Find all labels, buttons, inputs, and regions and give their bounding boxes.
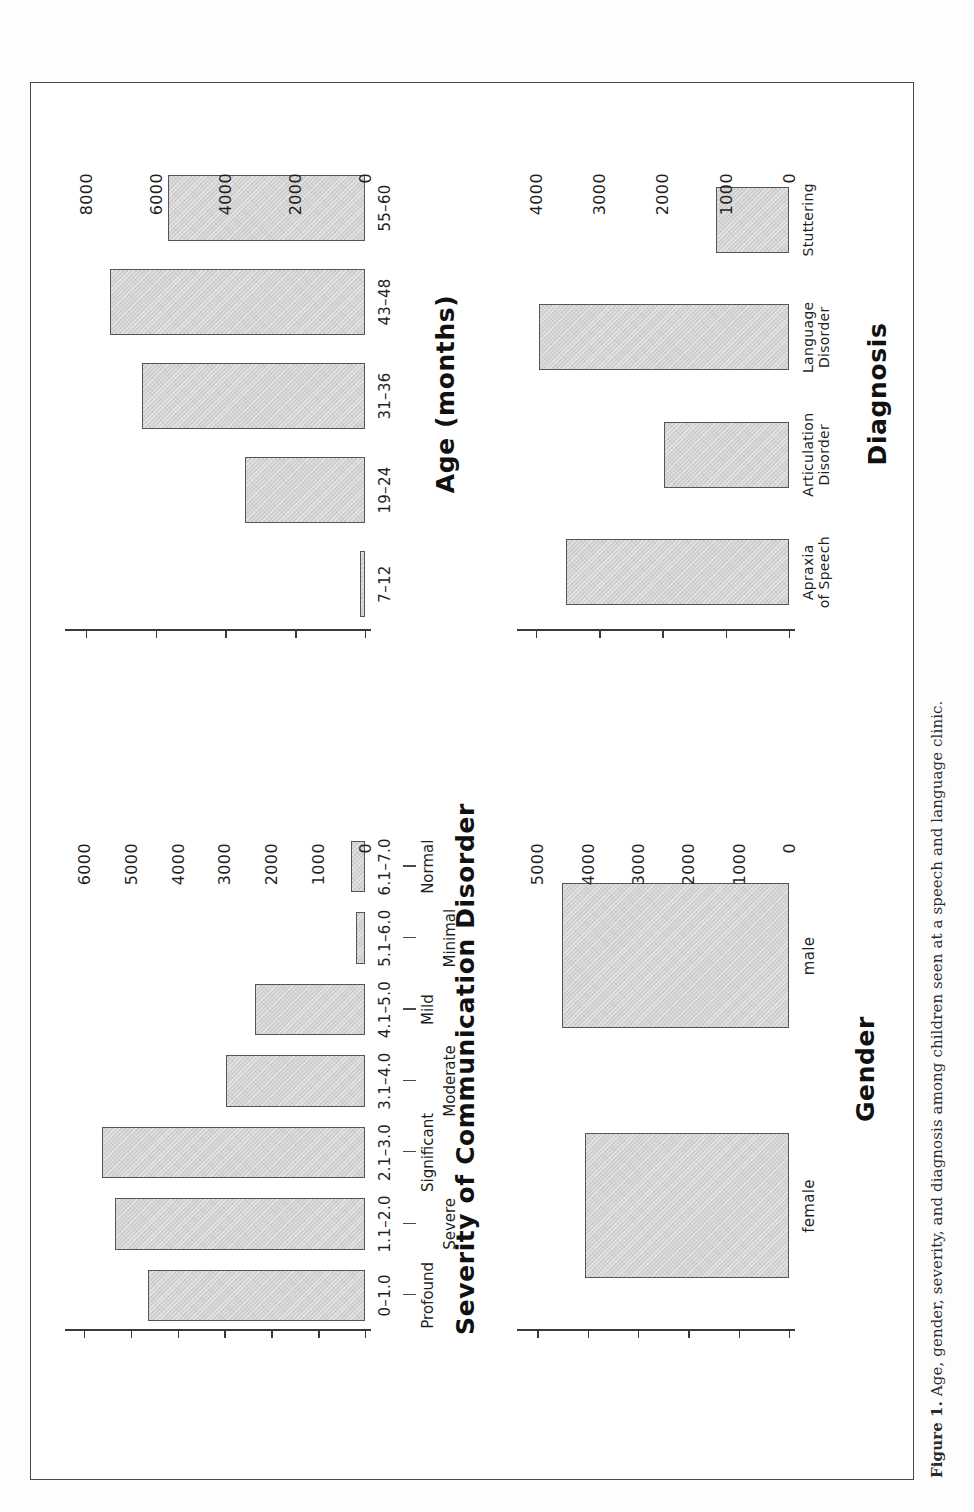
bar-2.1–3.0 [102,1127,365,1178]
diagnosis-y-tick-label: 2000 [653,173,672,215]
age-x-label: 31–36 [377,372,394,419]
age-x-label: 55–60 [377,184,394,231]
severity-x-label: 3.1–4.0 [377,1052,394,1109]
gender-plot-area: 010002000300040005000 [517,831,789,1331]
gender-y-tick [739,1331,740,1338]
severity-x-label: 5.1–6.0 [377,910,394,967]
gender-y-tick [789,1331,790,1338]
bar-apraxia-of-speech [566,539,789,605]
severity-y-tick-label: 6000 [74,843,93,885]
diagnosis-y-axis [517,629,795,631]
gender-x-label: female [801,1179,818,1233]
figure-caption: Figure 1. Age, gender, severity, and dia… [928,78,946,1478]
age-x-label: 43–48 [377,278,394,325]
chart-panel-age: 02000400060008000 7–1219–2431–3643–4855–… [59,119,489,739]
severity-y-tick-label: 0 [356,843,375,854]
age-chart-title: Age (months) [431,295,460,494]
age-plot-area: 02000400060008000 [65,161,365,631]
gender-y-tick [537,1331,538,1338]
bar-5.1–6.0 [356,912,365,963]
age-y-tick-label: 2000 [286,173,305,215]
age-x-label: 19–24 [377,466,394,513]
bar-1.1–2.0 [115,1198,365,1249]
severity-x-label: 2.1–3.0 [377,1124,394,1181]
bar-19–24 [245,457,365,523]
severity-y-tick [178,1331,179,1338]
severity-y-tick-label: 3000 [215,843,234,885]
age-y-tick [225,631,226,638]
figure-caption-text: Age, gender, severity, and diagnosis amo… [928,701,946,1397]
gender-y-tick-label: 1000 [729,843,748,885]
diagnosis-x-label: Articulation Disorder [801,413,832,497]
diagnosis-plot-area: 01000200030004000 [517,161,789,631]
severity-y-tick-label: 5000 [121,843,140,885]
diagnosis-y-tick [726,631,727,638]
severity-x-label: 6.1–7.0 [377,838,394,895]
chart-panel-diagnosis: 01000200030004000 Apraxia of SpeechArtic… [511,119,911,739]
diagnosis-y-tick [536,631,537,638]
diagnosis-x-label: Apraxia of Speech [801,536,832,608]
diagnosis-y-tick-label: 0 [780,173,799,184]
age-x-label: 7–12 [377,565,394,602]
figure-border-box: 0100020003000400050006000 0–1.01.1–2.02.… [30,82,914,1480]
gender-y-tick [688,1331,689,1338]
diagnosis-y-tick-label: 3000 [590,173,609,215]
age-y-tick-label: 6000 [146,173,165,215]
severity-y-tick-label: 4000 [168,843,187,885]
gender-chart-title: Gender [851,1016,880,1122]
severity-chart-title: Severity of Communication Disorder [451,803,480,1335]
severity-y-tick [131,1331,132,1338]
age-y-tick [156,631,157,638]
severity-y-tick [365,1331,366,1338]
severity-word-significant: Significant [419,1113,437,1192]
diagnosis-y-tick-label: 4000 [526,173,545,215]
severity-word-profound: Profound [419,1262,437,1329]
age-y-tick-label: 8000 [76,173,95,215]
gender-y-tick-label: 2000 [679,843,698,885]
bar-male [562,884,789,1029]
severity-x-label: 0–1.0 [377,1274,394,1316]
scanned-page-rotated: 0100020003000400050006000 0–1.01.1–2.02.… [0,0,974,1512]
bar-4.1–5.0 [255,984,365,1035]
bar-43–48 [110,269,365,335]
severity-word-dash [403,1008,416,1009]
gender-y-axis [517,1329,795,1331]
severity-y-tick [318,1331,319,1338]
diagnosis-y-tick [789,631,790,638]
age-y-tick [365,631,366,638]
bar-language-disorder [539,304,789,370]
severity-word-dash [403,1151,416,1152]
severity-x-label: 1.1–2.0 [377,1195,394,1252]
severity-word-dash [403,1080,416,1081]
severity-y-axis [65,1329,371,1331]
severity-word-dash [403,865,416,866]
severity-word-dash [403,937,416,938]
gender-y-tick-label: 5000 [528,843,547,885]
diagnosis-x-label: Language Disorder [801,302,832,374]
severity-y-tick [84,1331,85,1338]
diagnosis-y-tick [599,631,600,638]
severity-y-tick-label: 2000 [262,843,281,885]
age-y-tick [295,631,296,638]
severity-word-mild: Mild [419,994,437,1025]
severity-y-tick [224,1331,225,1338]
chart-panel-gender: 010002000300040005000 femalemale Gender [511,799,911,1439]
severity-y-tick [271,1331,272,1338]
bar-female [585,1134,789,1279]
age-y-tick [86,631,87,638]
bar-3.1–4.0 [226,1055,365,1106]
severity-word-normal: Normal [419,840,437,894]
gender-y-tick-label: 3000 [628,843,647,885]
severity-x-label: 4.1–5.0 [377,981,394,1038]
bar-31–36 [142,363,365,429]
severity-plot-area: 0100020003000400050006000 [65,831,365,1331]
diagnosis-x-label: Stuttering [801,183,817,256]
bar-55–60 [168,175,365,241]
gender-y-tick-label: 4000 [578,843,597,885]
bar-articulation-disorder [664,422,789,488]
severity-y-tick-label: 1000 [309,843,328,885]
figure-caption-label: Figure 1. [928,1401,946,1478]
chart-panel-severity: 0100020003000400050006000 0–1.01.1–2.02.… [59,799,489,1439]
gender-y-tick-label: 0 [780,843,799,854]
page-background: 0100020003000400050006000 0–1.01.1–2.02.… [0,0,974,1512]
